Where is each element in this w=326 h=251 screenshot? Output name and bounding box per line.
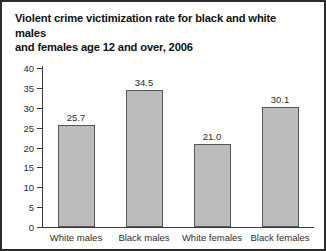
bar-value-label: 21.0 <box>203 131 222 142</box>
y-axis-tick <box>37 108 42 109</box>
y-axis-tick <box>37 167 42 168</box>
x-axis-line <box>42 227 314 228</box>
bar-white-females: 21.0 <box>194 144 231 227</box>
x-axis-label-white-males: White males <box>50 232 102 243</box>
chart-title: Violent crime victimization rate for bla… <box>15 11 305 55</box>
bar-black-females: 30.1 <box>262 107 299 227</box>
y-axis-tick <box>37 227 42 228</box>
y-axis-tick-label: 15 <box>23 162 34 173</box>
x-axis-label-white-females: White females <box>182 232 242 243</box>
y-axis-tick-label: 25 <box>23 122 34 133</box>
y-axis-tick-label: 40 <box>23 63 34 74</box>
x-axis-label-black-females: Black females <box>250 232 309 243</box>
y-axis-tick <box>37 207 42 208</box>
y-axis-tick-label: 10 <box>23 182 34 193</box>
x-axis-label-black-males: Black males <box>118 232 169 243</box>
y-axis-tick <box>37 88 42 89</box>
y-axis-tick <box>37 68 42 69</box>
bar-black-males: 34.5 <box>126 90 163 227</box>
plot-area: 0510152025303540 25.734.521.030.1 White … <box>42 68 314 227</box>
y-axis-tick-label: 5 <box>29 202 34 213</box>
bar-value-label: 25.7 <box>67 112 86 123</box>
y-axis-tick-label: 20 <box>23 142 34 153</box>
y-axis-line <box>42 66 43 228</box>
chart-figure: Violent crime victimization rate for bla… <box>0 0 326 251</box>
y-axis-tick <box>37 148 42 149</box>
y-axis-tick <box>37 187 42 188</box>
bar-white-males: 25.7 <box>58 125 95 227</box>
bar-value-label: 30.1 <box>271 94 290 105</box>
bar-value-label: 34.5 <box>135 77 154 88</box>
y-axis-tick-label: 0 <box>29 222 34 233</box>
y-axis-tick-label: 30 <box>23 102 34 113</box>
y-axis-tick-label: 35 <box>23 82 34 93</box>
y-axis-tick <box>37 128 42 129</box>
